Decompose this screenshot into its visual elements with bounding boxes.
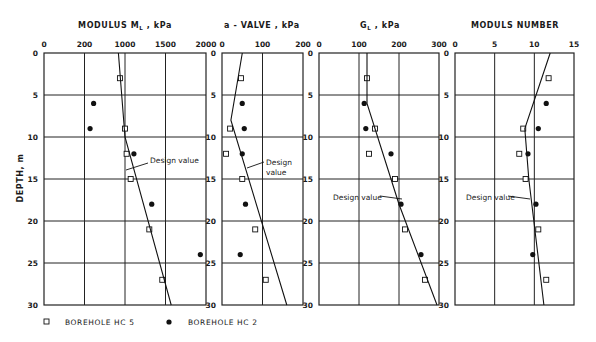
hc5-data-point [224,151,229,156]
hc5-data-point [403,227,408,232]
y-tick-label: 0 [33,49,38,58]
y-axis-label: DEPTH, m [16,153,25,202]
design-value-annotation: Design value [333,193,382,202]
hc5-data-point [263,277,268,282]
x-tick-label: 10 [529,40,539,49]
hc2-data-point [240,101,245,106]
hc2-data-point [91,101,96,106]
y-tick-label: 25 [206,259,216,268]
y-tick-label: 10 [439,133,449,142]
y-tick-label: 20 [28,217,38,226]
hc5-data-point [393,177,398,182]
chart-panel-3: GL , kPa0100200300051015202530Design val… [303,21,447,310]
hc2-data-point [388,151,393,156]
x-tick-label: 100 [351,40,367,49]
hc2-data-point [533,202,538,207]
y-tick-label: 15 [28,175,38,184]
design-value-annotation: Design [266,158,292,167]
hc5-data-point [240,177,245,182]
x-tick-label: 0 [316,40,321,49]
y-tick-label: 20 [439,217,449,226]
x-tick-label: 1500 [155,40,176,49]
hc2-data-point [530,252,535,257]
y-tick-label: 30 [206,301,216,310]
hc5-data-point [517,151,522,156]
y-tick-label: 25 [439,259,449,268]
hc2-data-point [362,101,367,106]
hc5-data-point [367,151,372,156]
legend-label-hc2: BOREHOLE HC 2 [188,318,258,327]
y-tick-label: 0 [308,49,313,58]
legend-dot-icon [166,319,171,324]
hc5-data-point [239,76,244,81]
x-tick-label: 5 [492,40,497,49]
x-tick-label: 200 [295,40,311,49]
legend: BOREHOLE HC 5BOREHOLE HC 2 [44,318,258,327]
chart-title: GL , kPa [360,21,400,31]
chart-panel-1: MODULUS ML , kPa020010001500200005101520… [28,21,217,310]
y-tick-label: 10 [206,133,216,142]
y-tick-label: 5 [211,91,216,100]
hc5-data-point [228,126,233,131]
hc2-data-point [536,126,541,131]
hc5-data-point [544,277,549,282]
x-tick-label: 200 [391,40,407,49]
x-tick-label: 2000 [196,40,217,49]
y-tick-label: 5 [444,91,449,100]
design-value-annotation: Design value [150,156,199,165]
hc2-data-point [242,126,247,131]
y-tick-label: 5 [33,91,38,100]
x-tick-label: 0 [219,40,224,49]
hc2-data-point [198,252,203,257]
y-tick-label: 20 [303,217,313,226]
y-tick-label: 25 [28,259,38,268]
x-tick-label: 300 [431,40,447,49]
hc5-data-point [128,177,133,182]
y-tick-label: 25 [303,259,313,268]
y-tick-label: 30 [303,301,313,310]
annotation-leader [126,163,148,170]
x-tick-label: 0 [41,40,46,49]
y-tick-label: 20 [206,217,216,226]
design-value-annotation: Design value [466,193,515,202]
chart-panel-2: a - VALVE , kPa0100200051015202530Design… [206,21,311,310]
x-tick-label: 1000 [115,40,136,49]
hc5-data-point [523,177,528,182]
legend-square-icon [44,319,49,324]
y-tick-label: 10 [28,133,38,142]
y-tick-label: 5 [308,91,313,100]
geotechnical-profile-figure: MODULUS ML , kPa020010001500200005101520… [0,0,596,342]
hc2-data-point [87,126,92,131]
hc5-data-point [536,227,541,232]
y-tick-label: 0 [444,49,449,58]
chart-title: MODULS NUMBER [471,21,559,30]
x-tick-label: 200 [77,40,93,49]
x-tick-label: 0 [452,40,457,49]
hc5-data-point [124,151,129,156]
legend-label-hc5: BOREHOLE HC 5 [65,318,135,327]
hc2-data-point [363,126,368,131]
hc2-data-point [131,151,136,156]
x-tick-label: 15 [569,40,579,49]
y-tick-label: 0 [211,49,216,58]
hc5-data-point [546,76,551,81]
annotation-leader [247,162,264,168]
hc5-data-point [253,227,258,232]
y-tick-label: 15 [303,175,313,184]
x-tick-label: 100 [255,40,271,49]
hc2-data-point [149,202,154,207]
design-value-annotation: value [266,168,287,177]
hc2-data-point [544,101,549,106]
y-tick-label: 10 [303,133,313,142]
y-tick-label: 30 [439,301,449,310]
y-tick-label: 15 [439,175,449,184]
hc2-data-point [243,202,248,207]
chart-panel-4: MODULS NUMBER051015051015202530Design va… [439,21,580,310]
hc2-data-point [238,252,243,257]
chart-title: MODULUS ML , kPa [78,21,172,31]
chart-title: a - VALVE , kPa [224,21,300,30]
y-tick-label: 30 [28,301,38,310]
y-tick-label: 15 [206,175,216,184]
